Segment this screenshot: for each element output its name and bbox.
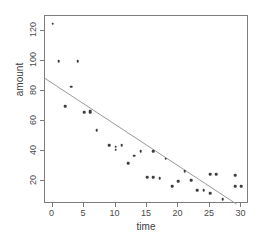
data-point bbox=[202, 189, 205, 192]
data-point bbox=[158, 177, 161, 180]
y-tick-label: 40 bbox=[28, 143, 38, 157]
y-tick-mark bbox=[40, 180, 44, 181]
y-tick-label: 80 bbox=[28, 83, 38, 97]
data-point bbox=[108, 144, 111, 147]
data-point bbox=[215, 173, 218, 176]
x-tick-label: 0 bbox=[49, 208, 54, 218]
data-point bbox=[133, 155, 136, 158]
x-tick-mark bbox=[115, 203, 116, 207]
data-point bbox=[152, 176, 155, 179]
data-point bbox=[234, 174, 237, 177]
data-point bbox=[171, 185, 174, 188]
x-tick-label: 10 bbox=[110, 208, 120, 218]
data-point bbox=[121, 144, 124, 147]
x-tick-label: 30 bbox=[235, 208, 245, 218]
data-point bbox=[83, 111, 86, 114]
data-point bbox=[51, 22, 54, 25]
data-point bbox=[64, 105, 67, 108]
y-tick-label: 20 bbox=[28, 173, 38, 187]
data-point bbox=[95, 129, 98, 132]
data-point bbox=[89, 111, 92, 114]
data-point bbox=[240, 185, 243, 188]
data-point bbox=[177, 180, 180, 183]
data-point bbox=[190, 179, 193, 182]
scatter-plot-figure: 05101520253020406080100120 time amount bbox=[0, 0, 264, 245]
data-point bbox=[196, 189, 199, 192]
data-point bbox=[209, 173, 212, 176]
x-tick-mark bbox=[52, 203, 53, 207]
data-point bbox=[146, 176, 149, 179]
data-point bbox=[127, 162, 130, 165]
data-point bbox=[234, 185, 237, 188]
y-tick-mark bbox=[40, 60, 44, 61]
plot-frame bbox=[44, 15, 248, 203]
data-point bbox=[70, 85, 73, 88]
y-tick-label: 100 bbox=[28, 53, 38, 67]
x-tick-label: 15 bbox=[141, 208, 151, 218]
y-tick-mark bbox=[40, 90, 44, 91]
y-tick-mark bbox=[40, 30, 44, 31]
y-tick-mark bbox=[40, 150, 44, 151]
data-point bbox=[114, 146, 117, 149]
data-point bbox=[183, 170, 186, 173]
x-tick-mark bbox=[209, 203, 210, 207]
y-tick-label: 120 bbox=[28, 23, 38, 37]
data-point bbox=[152, 150, 155, 153]
x-tick-mark bbox=[83, 203, 84, 207]
y-tick-mark bbox=[40, 120, 44, 121]
x-tick-mark bbox=[177, 203, 178, 207]
data-point bbox=[139, 150, 142, 153]
x-tick-label: 20 bbox=[172, 208, 182, 218]
data-point bbox=[221, 198, 224, 201]
x-axis-label: time bbox=[44, 221, 248, 232]
x-tick-mark bbox=[240, 203, 241, 207]
y-axis-label: amount bbox=[14, 45, 25, 115]
data-point bbox=[76, 60, 79, 63]
data-point bbox=[165, 158, 168, 161]
data-point bbox=[209, 192, 212, 195]
data-point bbox=[58, 60, 61, 63]
data-point bbox=[114, 149, 117, 152]
y-tick-label: 60 bbox=[28, 113, 38, 127]
data-points-layer bbox=[45, 16, 247, 202]
x-tick-mark bbox=[146, 203, 147, 207]
x-tick-label: 25 bbox=[204, 208, 214, 218]
x-tick-label: 5 bbox=[81, 208, 86, 218]
